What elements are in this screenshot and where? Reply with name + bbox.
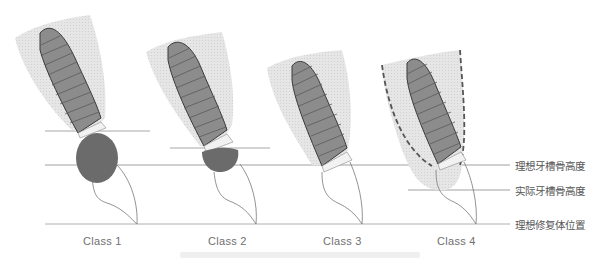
legend-ideal-bone-height: 理想牙槽骨高度 xyxy=(515,158,585,173)
blurred-caption xyxy=(180,252,420,258)
class-1-figure xyxy=(15,15,137,224)
class-1-label: Class 1 xyxy=(83,235,122,247)
class-4-figure xyxy=(382,50,476,224)
implant-classification-diagram xyxy=(0,0,603,263)
class-2-figure xyxy=(146,32,256,224)
class-2-label: Class 2 xyxy=(208,235,247,247)
legend-actual-bone-height: 实际牙槽骨高度 xyxy=(515,183,585,198)
class-3-figure xyxy=(267,50,362,224)
class-3-label: Class 3 xyxy=(323,235,362,247)
class-4-label: Class 4 xyxy=(437,235,476,247)
legend-ideal-restoration-position: 理想修复体位置 xyxy=(515,217,585,232)
